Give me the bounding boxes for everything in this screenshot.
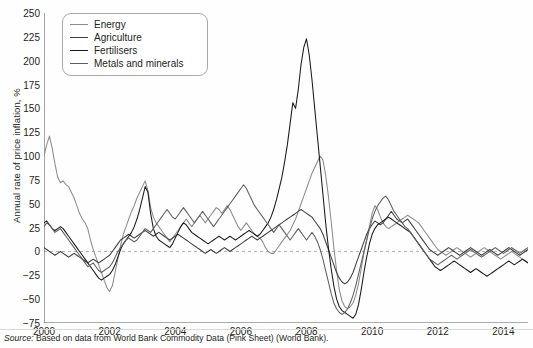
legend-item[interactable]: Metals and minerals [70,57,200,70]
series-line-fertilisers [44,39,528,318]
y-tick-label: 150 [6,103,40,114]
y-tick-label: 75 [6,174,40,185]
y-tick-label: 125 [6,127,40,138]
legend-item[interactable]: Fertilisers [70,44,200,57]
y-tick-label: 50 [6,198,40,209]
caption-divider [0,329,533,330]
y-tick-label: −50 [6,294,40,305]
series-line-energy [44,136,528,309]
legend-swatch-icon [70,24,88,25]
legend-item[interactable]: Agriculture [70,31,200,44]
y-tick-label: 225 [6,31,40,42]
figure-container: Annual rate of price inflation, % 250225… [0,0,533,348]
source-prefix: Source: [4,333,34,343]
x-tick-label: 2010 [347,326,397,337]
series-line-metals-and-minerals [44,185,528,315]
y-axis-tick-labels: 2502252001751501251007550250−25−50−75 [0,0,40,348]
y-tick-label: 100 [6,151,40,162]
legend-swatch-icon [70,37,88,38]
y-tick-label: 200 [6,55,40,66]
x-tick-label: 2014 [478,326,528,337]
chart-legend: EnergyAgricultureFertilisersMetals and m… [62,13,208,76]
legend-item[interactable]: Energy [70,18,200,31]
source-caption: Source: Based on data from World Bank Co… [4,333,328,343]
y-tick-label: 175 [6,79,40,90]
y-tick-label: 250 [6,8,40,19]
legend-swatch-icon [70,50,88,51]
legend-swatch-icon [70,63,88,64]
legend-label: Metals and minerals [94,57,183,70]
series-line-agriculture [44,209,528,283]
source-text: Based on data from World Bank Commodity … [34,333,329,343]
y-tick-label: 0 [6,246,40,257]
legend-label: Energy [94,18,126,31]
y-tick-label: 25 [6,222,40,233]
legend-label: Agriculture [94,31,142,44]
legend-label: Fertilisers [94,44,137,57]
y-tick-label: −25 [6,270,40,281]
x-tick-label: 2012 [413,326,463,337]
